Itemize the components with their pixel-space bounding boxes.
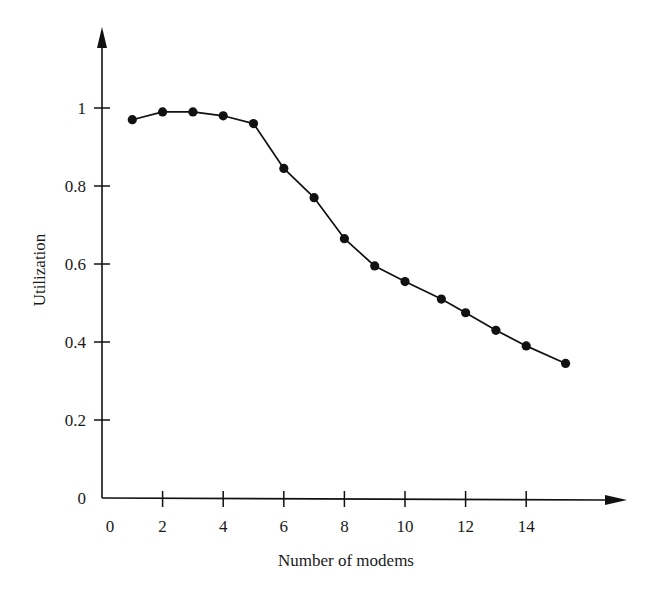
- x-tick-label: 4: [219, 517, 228, 536]
- utilization-chart: 00.20.40.60.81 02468101214 Number of mod…: [0, 0, 651, 594]
- data-series: [128, 107, 570, 368]
- axes: [97, 27, 627, 505]
- data-point-marker: [310, 193, 319, 202]
- y-tick-label: 0.8: [65, 177, 86, 196]
- y-tick-label: 1: [78, 99, 87, 118]
- x-axis-arrow-icon: [605, 495, 627, 505]
- data-point-marker: [370, 261, 379, 270]
- data-point-marker: [340, 234, 349, 243]
- x-tick-label: 2: [158, 517, 167, 536]
- x-tick-label: 10: [397, 517, 414, 536]
- data-point-marker: [561, 359, 570, 368]
- data-point-marker: [219, 111, 228, 120]
- y-tick-label: 0.6: [65, 255, 86, 274]
- series-line: [132, 112, 565, 364]
- data-point-marker: [461, 308, 470, 317]
- data-point-marker: [249, 119, 258, 128]
- y-tick-label: 0.2: [65, 411, 86, 430]
- y-axis-title: Utilization: [30, 233, 49, 306]
- data-point-marker: [158, 107, 167, 116]
- x-axis-title: Number of modems: [278, 551, 414, 570]
- data-point-marker: [437, 295, 446, 304]
- x-tick-label: 0: [106, 517, 115, 536]
- x-axis-line: [102, 498, 606, 500]
- x-tick-label: 14: [518, 517, 536, 536]
- x-tick-label: 6: [280, 517, 289, 536]
- y-ticks: 00.20.40.60.81: [65, 99, 110, 508]
- data-point-marker: [188, 107, 197, 116]
- y-tick-label: 0: [78, 489, 87, 508]
- data-point-marker: [491, 326, 500, 335]
- x-tick-label: 8: [340, 517, 349, 536]
- data-point-marker: [522, 341, 531, 350]
- data-point-marker: [128, 115, 137, 124]
- data-point-marker: [400, 277, 409, 286]
- data-point-marker: [279, 164, 288, 173]
- y-axis-arrow-icon: [97, 27, 107, 48]
- y-tick-label: 0.4: [65, 333, 87, 352]
- x-tick-label: 12: [457, 517, 474, 536]
